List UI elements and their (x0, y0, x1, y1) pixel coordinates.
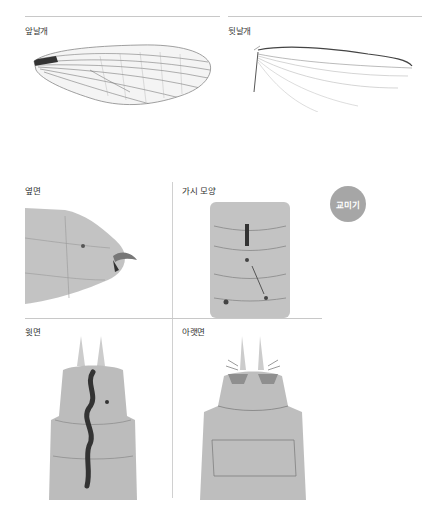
spine-shape-image (210, 202, 290, 318)
forewing-label: 앞날개 (25, 24, 48, 36)
copulatory-organ-badge[interactable]: 교미기 (330, 186, 366, 222)
dorsal-view-label: 윗면 (25, 325, 40, 337)
spine-shape-label: 가시 모양 (182, 184, 215, 196)
view-grid-vertical-divider (172, 182, 173, 498)
abdomen-ventral-view-image (198, 336, 308, 500)
hindwing-label: 뒷날개 (228, 24, 251, 36)
hindwing-image (248, 42, 418, 112)
hindwing-top-divider (228, 16, 422, 17)
forewing-top-divider (25, 16, 220, 17)
side-view-label: 옆면 (25, 184, 40, 196)
forewing-image (30, 40, 215, 110)
abdomen-side-view-image (25, 208, 145, 308)
view-grid-horizontal-divider (25, 318, 322, 319)
abdomen-dorsal-view-image (45, 336, 141, 500)
